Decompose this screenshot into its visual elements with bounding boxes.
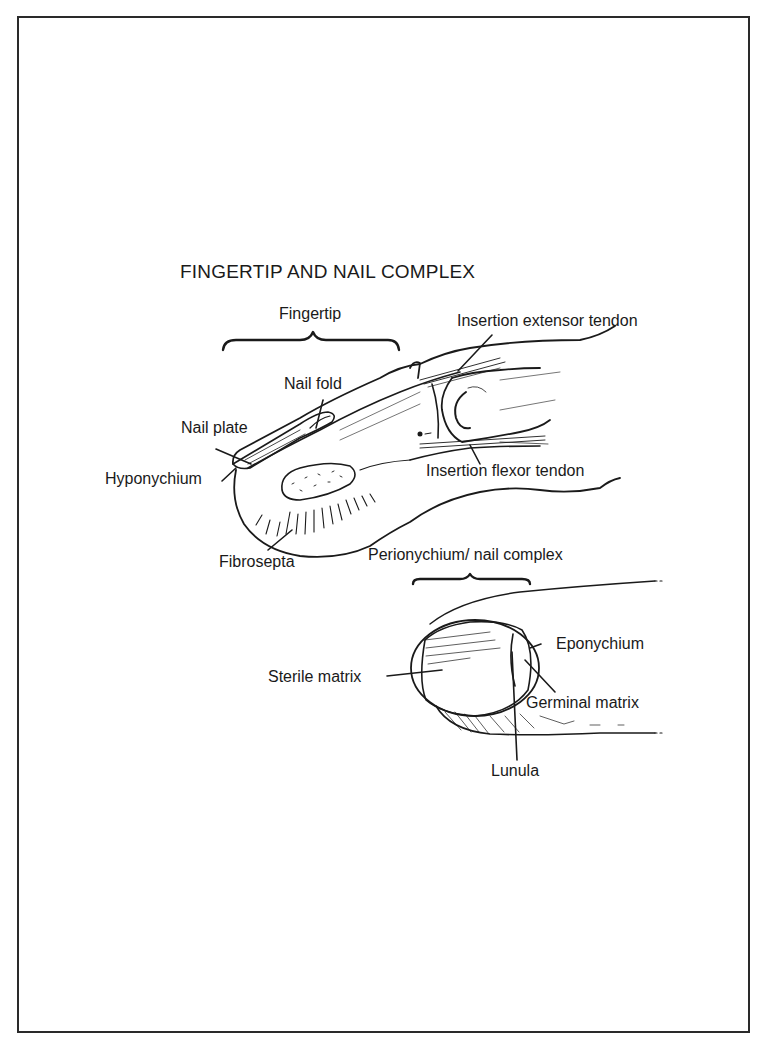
figure-title: FINGERTIP AND NAIL COMPLEX — [180, 261, 475, 283]
label-fibrosepta: Fibrosepta — [219, 554, 295, 570]
label-germinal-matrix: Germinal matrix — [526, 695, 639, 711]
label-insertion-extensor-tendon: Insertion extensor tendon — [457, 313, 638, 329]
label-lunula: Lunula — [491, 763, 539, 779]
nail-dorsal-view-drawing — [411, 581, 665, 735]
label-eponychium: Eponychium — [556, 636, 644, 652]
label-nail-fold: Nail fold — [284, 376, 342, 392]
label-fingertip-bracket: Fingertip — [279, 306, 341, 322]
label-nail-plate: Nail plate — [181, 420, 248, 436]
leader-lines-top — [216, 335, 492, 550]
perionychium-bracket — [413, 574, 530, 584]
anatomy-illustration — [0, 0, 760, 1063]
fingertip-sagittal-drawing — [233, 326, 620, 557]
label-perionychium-bracket: Perionychium/ nail complex — [368, 547, 563, 563]
label-sterile-matrix: Sterile matrix — [268, 669, 361, 685]
fingertip-bracket — [223, 332, 399, 350]
label-insertion-flexor-tendon: Insertion flexor tendon — [426, 463, 584, 479]
label-hyponychium: Hyponychium — [105, 471, 202, 487]
